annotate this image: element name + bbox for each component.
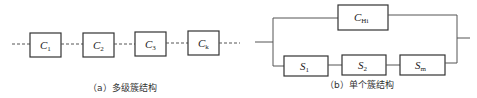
- figure-b-single-cluster: CHi S1 S2 Sm （b）单个簇结构: [255, 5, 470, 90]
- diagram-canvas: C1 C2 C3 Ck （a）多级簇结构 CHi S1 S2 Sm: [0, 0, 477, 98]
- caption-a: （a）多级簇结构: [88, 82, 157, 93]
- caption-b: （b）单个簇结构: [325, 79, 394, 90]
- figure-a-multilevel-cluster: C1 C2 C3 Ck （a）多级簇结构: [12, 31, 240, 93]
